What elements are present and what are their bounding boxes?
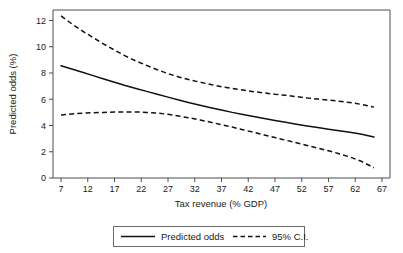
x-tick-label: 67 [377, 184, 387, 194]
x-tick-label: 47 [270, 184, 280, 194]
series-line-95-c-i-upper [61, 16, 374, 107]
y-axis-ticks [49, 21, 53, 179]
plot-frame [53, 10, 390, 178]
x-axis-tick-labels: 7121722273237424752576267 [59, 184, 387, 194]
x-tick-label: 27 [163, 184, 173, 194]
x-axis-title: Tax revenue (% GDP) [175, 198, 267, 209]
y-tick-label: 10 [36, 42, 46, 52]
x-tick-label: 22 [136, 184, 146, 194]
data-series-group [61, 16, 374, 168]
x-tick-label: 7 [59, 184, 64, 194]
legend-label-confidence-interval: 95% C.I. [272, 231, 308, 242]
y-axis-tick-labels: 024681012 [36, 16, 46, 184]
x-axis-ticks [61, 178, 382, 182]
x-tick-label: 37 [216, 184, 226, 194]
y-tick-label: 6 [41, 95, 46, 105]
x-tick-label: 52 [297, 184, 307, 194]
legend-label-predicted-odds: Predicted odds [161, 231, 225, 242]
series-line-predicted-odds [61, 66, 374, 137]
y-tick-label: 8 [41, 68, 46, 78]
x-tick-label: 17 [110, 184, 120, 194]
x-tick-label: 42 [243, 184, 253, 194]
y-tick-label: 4 [41, 121, 46, 131]
y-tick-label: 12 [36, 16, 46, 26]
series-line-95-c-i-lower [61, 112, 374, 168]
x-tick-label: 12 [83, 184, 93, 194]
legend: Predicted odds 95% C.I. [114, 227, 309, 247]
y-tick-label: 2 [41, 147, 46, 157]
x-tick-label: 32 [190, 184, 200, 194]
figure-container: 024681012 7121722273237424752576267 Pred… [0, 0, 403, 253]
x-tick-label: 62 [350, 184, 360, 194]
x-tick-label: 57 [323, 184, 333, 194]
y-tick-label: 0 [41, 173, 46, 183]
y-axis-title: Predicted odds (%) [7, 54, 18, 135]
predicted-odds-chart: 024681012 7121722273237424752576267 Pred… [0, 0, 403, 253]
